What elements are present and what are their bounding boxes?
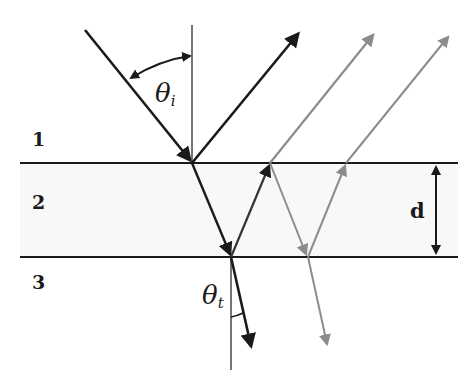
- medium-2-label: 2: [32, 193, 45, 212]
- theta-subscript: i: [171, 92, 176, 110]
- reflected-ray-2: [270, 35, 373, 163]
- theta-symbol: θ: [202, 280, 218, 310]
- thickness-label: d: [410, 200, 425, 221]
- reflected-ray-3: [346, 37, 448, 163]
- medium-3-label: 3: [32, 273, 45, 292]
- reflected-ray-1: [192, 34, 298, 163]
- film-layer: [20, 163, 458, 257]
- transmitted-angle-label: θt: [202, 282, 224, 311]
- thin-film-diagram: [0, 0, 470, 386]
- transmitted-ray-1: [231, 257, 251, 346]
- transmitted-ray-2: [308, 257, 327, 344]
- medium-1-label: 1: [32, 130, 45, 149]
- incident-angle-arc: [131, 56, 190, 78]
- theta-subscript: t: [218, 294, 224, 312]
- incident-angle-label: θi: [155, 80, 175, 109]
- transmitted-angle-arc: [231, 313, 243, 317]
- theta-symbol: θ: [155, 78, 171, 108]
